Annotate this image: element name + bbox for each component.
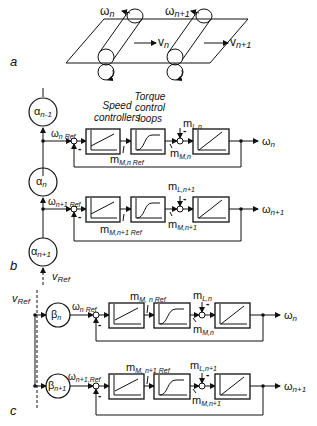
minus-sign: -	[78, 143, 81, 154]
panel-c-label: c	[10, 403, 17, 418]
minus-sign: -	[78, 211, 81, 222]
beta-label: βn	[51, 308, 61, 321]
minus-sign: -	[183, 193, 186, 204]
speed-controllers-label: Speedcontrollers	[94, 100, 140, 123]
minus-sign: -	[98, 319, 101, 330]
roller-n1	[167, 9, 212, 80]
sum-node	[93, 383, 99, 389]
sum-node	[177, 206, 183, 212]
strip-sheet	[66, 19, 248, 63]
control-diagram: a ωn ωn+1 vn vn+1	[0, 0, 317, 426]
v-ref-label: vRef	[12, 292, 31, 306]
panel-b-label: b	[10, 258, 17, 273]
m-L-label: mL,n+1	[190, 359, 217, 372]
minus-sign: -	[98, 390, 101, 401]
omega-out-label: ωn+1	[262, 203, 284, 217]
alpha-n-label: αn	[36, 175, 47, 189]
m-ref-label: mM, n Ref	[130, 290, 167, 303]
m-ref-label: mM,n+1 Ref	[100, 223, 143, 236]
sum-node	[199, 383, 205, 389]
v-n-label: vn	[158, 35, 169, 50]
omega-n-label: ωn	[100, 4, 114, 19]
alpha-next-label: αn+1	[31, 245, 51, 259]
panel-b-row-n1: ωn+1 Ref - - mM,n+1 Ref mL,n+1 mM,n+1	[41, 180, 284, 241]
omega-ref-label: ωn+1,Ref	[68, 371, 102, 383]
panel-c: c vRef βn ωn Ref	[10, 289, 306, 418]
panel-a-label: a	[10, 54, 17, 69]
v-ref-label: vRef	[52, 270, 71, 284]
m-M-label: mM,n	[170, 147, 191, 160]
panel-a: a ωn ωn+1 vn vn+1	[10, 4, 251, 80]
panel-c-row-n1: βn+1 ωn+1,Ref - - mM, n+1 Ref mL,n+1	[33, 359, 306, 415]
panel-b: b Speedcontrollers Torquecontrolloops αn…	[10, 88, 284, 285]
alpha-prev-label: αn-1	[34, 105, 52, 119]
sum-node	[177, 138, 183, 144]
omega-out-label: ωn+1	[284, 380, 306, 394]
m-L-label: mL,n+1	[168, 180, 195, 193]
roller-n	[98, 9, 143, 80]
omega-out-label: ωn	[262, 135, 276, 149]
omega-out-label: ωn	[284, 309, 298, 323]
m-ref-label: mM,n Ref	[110, 153, 145, 166]
omega-n1-label: ωn+1	[165, 4, 190, 19]
torque-loops-label: Torquecontrolloops	[135, 91, 166, 124]
m-L-label: mL,n	[193, 289, 212, 302]
m-L-label: mL,n	[183, 117, 202, 130]
sum-node	[199, 312, 205, 318]
m-M-label: mM,n	[193, 323, 214, 336]
beta-label: βn+1	[48, 379, 66, 392]
omega-ref-label: ωn+1 Ref	[48, 196, 82, 208]
omega-ref-label: ωn Ref	[72, 301, 98, 313]
panel-c-row-n: βn ωn Ref - - mM, n Ref mL,n mM	[33, 289, 297, 341]
panel-b-row-n: ωn Ref - - mM,n Ref mL,n mM,n ωn	[41, 117, 275, 167]
v-n1-label: vn+1	[230, 35, 251, 50]
m-ref-label: mM, n+1 Ref	[126, 361, 171, 374]
